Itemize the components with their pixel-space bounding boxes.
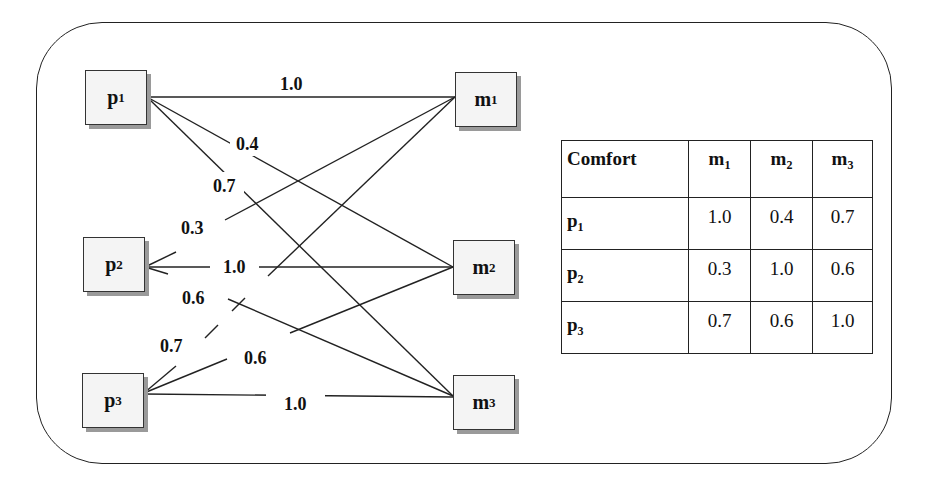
node-subscript: 3 xyxy=(489,395,496,411)
node-p1: p1 xyxy=(85,70,147,125)
node-m2: m2 xyxy=(453,240,515,295)
table-cell: 0.7 xyxy=(689,302,751,354)
table-row-header-p3: p3 xyxy=(562,302,689,354)
arrowhead-p2 xyxy=(145,267,168,274)
table-header-row: Comfort m1 m2 m3 xyxy=(562,141,873,198)
node-label: p xyxy=(105,253,116,276)
node-subscript: 1 xyxy=(118,90,125,106)
table-cell: 1.0 xyxy=(689,198,751,250)
edge-label-m2-p2: 1.0 xyxy=(210,257,259,277)
edge-label-m1-p2: 0.3 xyxy=(178,218,207,238)
table-row: p3 0.7 0.6 1.0 xyxy=(562,302,873,354)
node-label: m xyxy=(472,391,489,414)
comfort-table: Comfort m1 m2 m3 p1 1.0 0.4 0.7 p2 0.3 1… xyxy=(561,140,873,354)
table-cell: 0.7 xyxy=(813,198,873,250)
table-corner-header: Comfort xyxy=(562,141,689,198)
table-row-header-p2: p2 xyxy=(562,250,689,302)
edge-m1-p2 xyxy=(225,97,455,220)
node-label: p xyxy=(107,86,118,109)
node-label: p xyxy=(104,389,115,412)
edge-label-p1-m3: 0.7 xyxy=(205,172,244,200)
table-cell: 0.4 xyxy=(751,198,813,250)
edge-label-m1-p3: 0.7 xyxy=(157,336,186,356)
table-cell: 0.3 xyxy=(689,250,751,302)
node-label: m xyxy=(472,256,489,279)
node-m3: m3 xyxy=(453,375,515,430)
node-subscript: 3 xyxy=(115,393,122,409)
table-cell: 1.0 xyxy=(751,250,813,302)
edge-m2-p3-seg xyxy=(144,359,227,393)
table-row: p1 1.0 0.4 0.7 xyxy=(562,198,873,250)
node-p3: p3 xyxy=(82,373,144,428)
node-p2: p2 xyxy=(83,237,145,292)
table-col-header-m2: m2 xyxy=(751,141,813,198)
row-subscript: 2 xyxy=(578,272,584,286)
row-label: p xyxy=(567,314,578,335)
edge-m1-p3-seg xyxy=(232,298,245,311)
edge-m1-p3-seg xyxy=(205,325,218,338)
col-subscript: 1 xyxy=(724,158,730,172)
edge-p1-m3 xyxy=(147,97,453,396)
col-label: m xyxy=(832,148,848,169)
edge-label-p1-m1: 1.0 xyxy=(262,74,321,94)
arrowhead-p2 xyxy=(145,252,176,267)
edge-m1-p3 xyxy=(268,97,455,276)
table-row: p2 0.3 1.0 0.6 xyxy=(562,250,873,302)
node-subscript: 1 xyxy=(491,92,498,108)
node-subscript: 2 xyxy=(489,260,496,276)
edge-label-m3-p2: 0.6 xyxy=(178,288,209,308)
row-label: p xyxy=(567,262,578,283)
table-cell: 0.6 xyxy=(751,302,813,354)
row-subscript: 3 xyxy=(578,324,584,338)
node-label: m xyxy=(474,88,491,111)
edge-label-m2-p3: 0.6 xyxy=(240,348,271,368)
edge-m2-p3 xyxy=(290,267,453,333)
edge-label-p1-m2: 0.4 xyxy=(230,132,265,156)
node-subscript: 2 xyxy=(116,257,123,273)
row-subscript: 1 xyxy=(578,220,584,234)
edge-label-p3-m3: 1.0 xyxy=(266,394,325,414)
table-col-header-m1: m1 xyxy=(689,141,751,198)
table-cell: 0.6 xyxy=(813,250,873,302)
row-label: p xyxy=(567,210,578,231)
col-label: m xyxy=(709,148,725,169)
table-row-header-p1: p1 xyxy=(562,198,689,250)
col-subscript: 3 xyxy=(847,158,853,172)
table-cell: 1.0 xyxy=(813,302,873,354)
col-subscript: 2 xyxy=(786,158,792,172)
col-label: m xyxy=(771,148,787,169)
node-m1: m1 xyxy=(455,72,517,127)
table-col-header-m3: m3 xyxy=(813,141,873,198)
edge-m1-p3-seg xyxy=(144,366,176,393)
